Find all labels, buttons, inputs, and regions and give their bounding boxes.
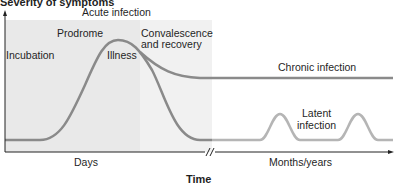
x-axis-title: Time [186, 173, 211, 185]
label-latent-1: Latent [302, 107, 331, 119]
label-chronic: Chronic infection [278, 61, 356, 73]
label-prodrome: Prodrome [57, 27, 103, 39]
label-months: Months/years [269, 156, 332, 168]
label-incubation: Incubation [6, 49, 54, 61]
x-axis-arrow-icon [388, 150, 394, 154]
label-days: Days [74, 156, 98, 168]
label-acute: Acute infection [82, 6, 151, 18]
label-convalescence-2: and recovery [141, 38, 202, 50]
label-latent-2: infection [297, 119, 336, 131]
label-illness: Illness [107, 49, 137, 61]
y-axis-arrow-icon [3, 10, 7, 16]
